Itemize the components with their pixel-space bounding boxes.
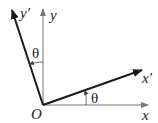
y-axis-label: y xyxy=(50,8,57,23)
angle-arc-top xyxy=(30,62,43,64)
rotation-diagram: O x y x′ y′ θ θ xyxy=(0,0,158,123)
origin-label: O xyxy=(31,107,42,122)
angle-label-bottom: θ xyxy=(91,91,98,106)
angle-label-top: θ xyxy=(32,46,39,61)
x-prime-axis-label: x′ xyxy=(142,71,152,86)
y-prime-axis-label: y′ xyxy=(20,6,30,21)
angle-arc-bottom xyxy=(85,91,86,105)
x-axis-label: x xyxy=(142,108,149,123)
